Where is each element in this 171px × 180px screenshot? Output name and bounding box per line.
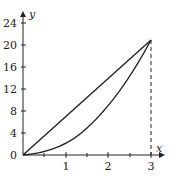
y-tick-labels: 0 4 8 12 16 20 24 <box>3 17 17 162</box>
svg-text:0: 0 <box>10 149 17 162</box>
svg-text:20: 20 <box>3 39 17 52</box>
series-line <box>23 40 151 155</box>
x-tick-labels: 1 2 3 <box>63 160 155 173</box>
svg-text:4: 4 <box>10 127 17 140</box>
y-axis-label: y <box>28 8 36 21</box>
svg-text:12: 12 <box>3 83 17 96</box>
x-axis-label: x <box>156 142 163 155</box>
svg-text:16: 16 <box>3 61 17 74</box>
svg-text:1: 1 <box>63 160 70 173</box>
svg-text:24: 24 <box>3 17 17 30</box>
svg-text:2: 2 <box>105 160 112 173</box>
svg-text:3: 3 <box>148 160 155 173</box>
svg-text:8: 8 <box>10 105 17 118</box>
chart: 0 4 8 12 16 20 24 1 2 3 x y <box>0 0 171 180</box>
